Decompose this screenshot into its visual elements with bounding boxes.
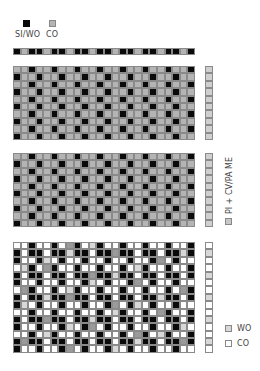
weave-cell [13, 168, 21, 175]
weave-cell [180, 190, 188, 197]
strip-cell [205, 249, 213, 256]
weave-cell [36, 301, 44, 308]
weave-cell [81, 183, 89, 190]
weave-cell [13, 88, 21, 95]
strip-cell [205, 175, 213, 182]
strip-block-1 [205, 66, 213, 140]
weave-cell [104, 73, 112, 80]
weave-cell [127, 133, 135, 140]
weave-cell [187, 153, 195, 160]
weave-cell [157, 103, 165, 110]
weave-cell [104, 338, 112, 345]
weave-cell [127, 309, 135, 316]
weave-cell [28, 66, 36, 73]
weave-cell [104, 153, 112, 160]
weave-cell [157, 73, 165, 80]
weave-cell [165, 88, 173, 95]
weave-cell [36, 212, 44, 219]
weave-cell [43, 133, 51, 140]
legend-label-wo: WO [237, 324, 252, 333]
weave-cell [172, 103, 180, 110]
weave-cell [74, 160, 82, 167]
weave-cell [81, 279, 89, 286]
weave-cell [36, 103, 44, 110]
weave-cell [119, 81, 127, 88]
weave-cell [89, 257, 97, 264]
weave-cell [21, 220, 29, 227]
weave-cell [51, 197, 59, 204]
weave-cell [112, 331, 120, 338]
weave-cell [142, 168, 150, 175]
top-bar-grid [13, 48, 195, 55]
weave-cell [112, 125, 120, 132]
weave-cell [58, 212, 66, 219]
weave-cell [43, 73, 51, 80]
strip-cell [205, 220, 213, 227]
weave-cell [119, 264, 127, 271]
weave-cell [149, 249, 157, 256]
weave-cell [119, 197, 127, 204]
weave-cell [81, 264, 89, 271]
weave-cell [74, 264, 82, 271]
weave-cell [89, 175, 97, 182]
weave-cell [51, 316, 59, 323]
weave-cell [28, 153, 36, 160]
weave-cell [157, 153, 165, 160]
weave-cell [157, 81, 165, 88]
weave-cell [180, 338, 188, 345]
weave-cell [28, 279, 36, 286]
weave-cell [74, 257, 82, 264]
weave-cell [149, 212, 157, 219]
weave-cell [13, 279, 21, 286]
weave-cell [157, 301, 165, 308]
weave-cell [142, 81, 150, 88]
weave-cell [119, 160, 127, 167]
weave-cell [28, 125, 36, 132]
weave-cell [58, 316, 66, 323]
weave-cell [74, 242, 82, 249]
weave-cell [81, 249, 89, 256]
weave-cell [127, 301, 135, 308]
weave-cell [51, 220, 59, 227]
weave-cell [104, 220, 112, 227]
weave-cell [66, 190, 74, 197]
weave-cell [157, 279, 165, 286]
weave-cell [127, 103, 135, 110]
weave-cell [74, 338, 82, 345]
weave-cell [21, 212, 29, 219]
weave-cell [112, 257, 120, 264]
legend-label-si-wo: SI/WO [15, 30, 40, 39]
weave-cell [187, 316, 195, 323]
weave-cell [134, 168, 142, 175]
weave-cell [127, 183, 135, 190]
weave-cell [28, 294, 36, 301]
weave-cell [172, 279, 180, 286]
weave-cell [28, 81, 36, 88]
strip-cell [205, 197, 213, 204]
weave-cell [96, 183, 104, 190]
strip-cell [205, 190, 213, 197]
weave-cell [104, 96, 112, 103]
weave-cell [187, 125, 195, 132]
weave-cell [43, 220, 51, 227]
weave-cell [89, 133, 97, 140]
weave-cell [81, 212, 89, 219]
weave-cell [51, 323, 59, 330]
weave-cell [96, 323, 104, 330]
weave-cell [43, 125, 51, 132]
weave-cell [74, 81, 82, 88]
weave-cell [58, 272, 66, 279]
weave-cell [74, 316, 82, 323]
weave-cell [43, 88, 51, 95]
weave-cell [58, 133, 66, 140]
weave-cell [13, 272, 21, 279]
weave-cell [43, 205, 51, 212]
weave-cell [134, 316, 142, 323]
weave-cell [51, 183, 59, 190]
weave-cell [127, 220, 135, 227]
weave-cell [127, 279, 135, 286]
weave-cell [89, 96, 97, 103]
strip-cell [205, 294, 213, 301]
weave-cell [142, 125, 150, 132]
weave-cell [81, 257, 89, 264]
